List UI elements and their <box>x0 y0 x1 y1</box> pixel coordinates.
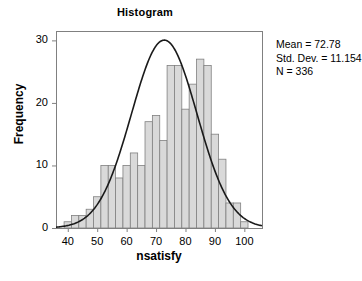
histogram-bar <box>130 153 137 228</box>
histogram-bar <box>152 115 159 228</box>
histogram-bar <box>123 165 130 228</box>
histogram-bar <box>197 59 204 228</box>
histogram-bar <box>241 222 248 228</box>
histogram-bar <box>174 65 181 228</box>
histogram-bar <box>211 134 218 228</box>
histogram-bar <box>138 165 145 228</box>
histogram-bar <box>145 122 152 228</box>
histogram-bar <box>182 109 189 228</box>
histogram-bar <box>86 209 93 228</box>
histogram-bar <box>160 140 167 228</box>
histogram-bar <box>116 178 123 228</box>
histogram-bar <box>167 65 174 228</box>
